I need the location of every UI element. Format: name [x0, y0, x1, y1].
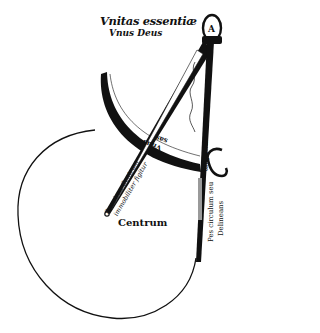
- label-mundum: mundum: [202, 140, 209, 171]
- scroll-ornament: [208, 149, 227, 176]
- label-right-leg-2: Delineans: [218, 201, 225, 236]
- label-centrum: Centrum: [118, 218, 167, 228]
- label-right-leg-1: Pes circulum seu: [208, 182, 215, 242]
- label-unitas-essentiae: Vnitas essentiæ: [100, 16, 197, 28]
- svg-text:A: A: [207, 24, 216, 34]
- label-unus-deus: Vnus Deus: [109, 29, 162, 38]
